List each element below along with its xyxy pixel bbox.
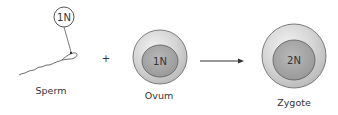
fertilization-diagram: 1N Sperm + 1N Ovum 2N Zygote: [0, 0, 338, 115]
sperm-tail: [19, 60, 62, 75]
sperm-pointer-line: [64, 27, 71, 52]
zygote-label: Zygote: [277, 97, 311, 108]
arrow: [200, 59, 244, 64]
ovum: 1N Ovum: [133, 30, 187, 101]
sperm: 1N Sperm: [19, 7, 77, 96]
plus-sign: +: [102, 53, 110, 64]
zygote: 2N Zygote: [262, 24, 326, 108]
sperm-label: Sperm: [36, 85, 67, 96]
arrow-head-icon: [238, 59, 244, 64]
sperm-head: [62, 53, 77, 60]
ovum-label: Ovum: [145, 90, 173, 101]
zygote-ploidy-label: 2N: [287, 55, 301, 66]
sperm-pointer-dot: [70, 52, 72, 54]
ovum-ploidy-label: 1N: [153, 56, 167, 67]
sperm-ploidy-label: 1N: [57, 12, 71, 23]
